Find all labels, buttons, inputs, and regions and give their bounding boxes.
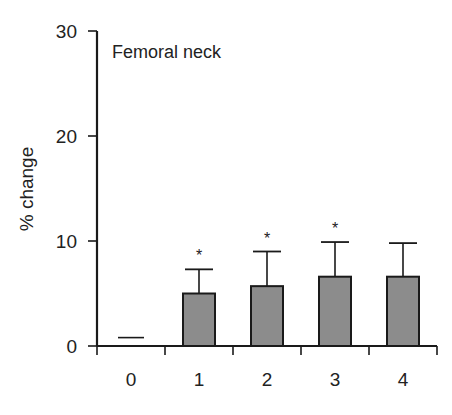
x-tick-label: 2 bbox=[262, 369, 273, 390]
significance-marker: * bbox=[332, 220, 338, 237]
x-axis: 01234 bbox=[97, 346, 437, 390]
x-tick-label: 3 bbox=[330, 369, 341, 390]
y-axis: 0102030 bbox=[56, 21, 97, 357]
panel-title: Femoral neck bbox=[112, 42, 222, 62]
y-tick-label: 30 bbox=[56, 21, 77, 42]
x-tick-label: 4 bbox=[398, 369, 409, 390]
significance-marker: * bbox=[264, 230, 270, 247]
bar bbox=[319, 277, 351, 346]
x-tick-label: 0 bbox=[126, 369, 137, 390]
bars: *** bbox=[118, 220, 419, 346]
bar bbox=[387, 277, 419, 346]
y-tick-label: 0 bbox=[66, 336, 77, 357]
x-tick-label: 1 bbox=[194, 369, 205, 390]
bar bbox=[183, 294, 215, 347]
significance-marker: * bbox=[196, 247, 202, 264]
bar bbox=[251, 286, 283, 346]
y-tick-label: 10 bbox=[56, 231, 77, 252]
y-tick-label: 20 bbox=[56, 126, 77, 147]
y-axis-label: % change bbox=[16, 147, 37, 232]
bar-chart: 0102030 01234 *** Femoral neck % change bbox=[0, 0, 452, 415]
